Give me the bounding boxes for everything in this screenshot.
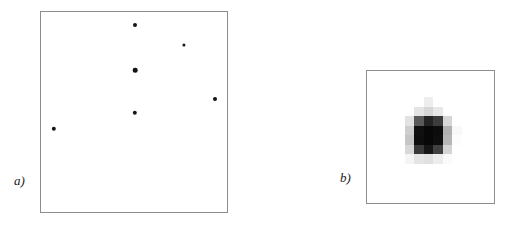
heatmap-cell [395, 154, 405, 164]
heatmap-cell [405, 116, 415, 126]
heatmap-cell [433, 154, 443, 164]
heatmap-cell [433, 97, 443, 107]
heatmap-cell [395, 97, 405, 107]
heatmap-cell [395, 107, 405, 117]
heatmap-cell [405, 154, 415, 164]
heatmap-cell [414, 135, 424, 145]
heatmap-cell [424, 135, 434, 145]
heatmap-cell [452, 116, 462, 126]
heatmap-cell [443, 116, 453, 126]
heatmap-cell [433, 107, 443, 117]
heatmap-cell [414, 97, 424, 107]
heatmap-cell [414, 145, 424, 155]
heatmap-cell [443, 145, 453, 155]
heatmap-cell [443, 154, 453, 164]
heatmap-cell [395, 145, 405, 155]
star-point [133, 68, 138, 73]
heatmap-cell [405, 107, 415, 117]
star-point [133, 111, 137, 115]
heatmap-cell [424, 107, 434, 117]
heatmap-cell [414, 107, 424, 117]
heatmap-cell [433, 126, 443, 136]
heatmap-cell [414, 154, 424, 164]
heatmap-cell [405, 145, 415, 155]
heatmap-cell [443, 126, 453, 136]
star-point [182, 43, 185, 46]
heatmap-cell [405, 135, 415, 145]
heatmap-cell [424, 116, 434, 126]
heatmap-cell [452, 126, 462, 136]
heatmap-cell [395, 116, 405, 126]
heatmap-cell [433, 145, 443, 155]
star-point [133, 23, 137, 27]
heatmap-cell [452, 154, 462, 164]
heatmap-cell [424, 126, 434, 136]
heatmap-cell [433, 135, 443, 145]
heatmap-cell [405, 97, 415, 107]
panel-b-pixel-heatmap [395, 97, 462, 164]
figure-root: a) b) [0, 0, 508, 225]
heatmap-cell [452, 145, 462, 155]
heatmap-cell [405, 126, 415, 136]
heatmap-cell [443, 135, 453, 145]
heatmap-cell [414, 116, 424, 126]
heatmap-cell [395, 135, 405, 145]
star-point [52, 127, 56, 131]
heatmap-cell [424, 145, 434, 155]
panel-b-plot-frame [366, 70, 495, 204]
heatmap-cell [433, 116, 443, 126]
panel-a-scatter-layer [41, 12, 227, 212]
heatmap-cell [452, 107, 462, 117]
star-point [213, 97, 217, 101]
heatmap-cell [452, 135, 462, 145]
heatmap-cell [414, 126, 424, 136]
heatmap-cell [443, 107, 453, 117]
panel-b-caption: b) [340, 171, 351, 184]
heatmap-cell [443, 97, 453, 107]
heatmap-cell [424, 97, 434, 107]
panel-a-plot-frame [40, 11, 228, 213]
heatmap-cell [395, 126, 405, 136]
heatmap-cell [452, 97, 462, 107]
heatmap-cell [424, 154, 434, 164]
panel-a-caption: a) [14, 174, 25, 187]
